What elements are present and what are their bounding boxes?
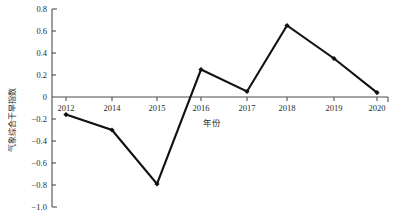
y-tick-label-9: −1.0 bbox=[32, 202, 47, 212]
chart-container: 0.8 0.6 0.4 0.2 0 −0.2 −0.4 −0.6 −0.8 −1… bbox=[0, 0, 400, 224]
y-tick-label-8: −0.8 bbox=[32, 180, 47, 190]
x-tick-label-2012: 2012 bbox=[58, 103, 75, 113]
y-axis-tick-marks bbox=[52, 31, 56, 185]
x-tick-label-2016: 2016 bbox=[193, 103, 210, 113]
y-tick-label-5: −0.2 bbox=[32, 114, 47, 124]
drought-index-line-chart: 0.8 0.6 0.4 0.2 0 −0.2 −0.4 −0.6 −0.8 −1… bbox=[0, 0, 400, 224]
x-axis-title: 年份 bbox=[203, 118, 221, 128]
y-tick-label-7: −0.6 bbox=[32, 158, 47, 168]
y-tick-label-4: 0 bbox=[43, 92, 47, 102]
x-tick-label-2017: 2017 bbox=[239, 103, 256, 113]
x-tick-label-2018: 2018 bbox=[279, 103, 296, 113]
y-tick-label-2: 0.4 bbox=[36, 48, 47, 58]
x-tick-label-2014: 2014 bbox=[104, 103, 122, 113]
x-tick-label-2019: 2019 bbox=[326, 103, 343, 113]
x-axis-tick-marks bbox=[66, 97, 377, 101]
x-tick-label-2020: 2020 bbox=[369, 103, 386, 113]
y-tick-label-1: 0.6 bbox=[36, 26, 47, 36]
y-tick-label-0: 0.8 bbox=[36, 4, 47, 14]
y-tick-label-3: 0.2 bbox=[36, 70, 47, 80]
y-tick-label-6: −0.4 bbox=[32, 136, 48, 146]
x-tick-label-2015: 2015 bbox=[149, 103, 166, 113]
y-axis-title: 气象综合干旱指数 bbox=[7, 88, 17, 152]
